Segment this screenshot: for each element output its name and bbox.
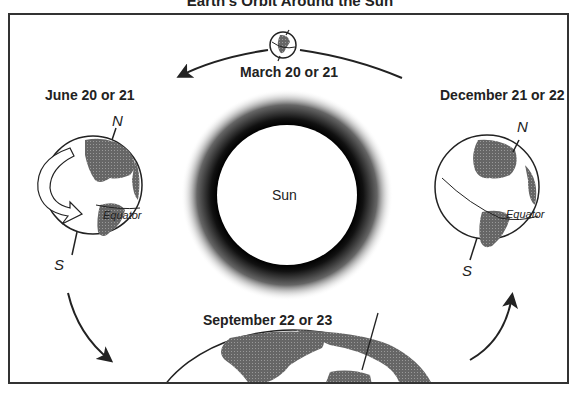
label-sun: Sun [272,187,297,203]
label-september: September 22 or 23 [203,312,332,328]
label-june: June 20 or 21 [45,87,135,103]
december-south-label: S [462,262,472,279]
label-march: March 20 or 21 [240,64,338,80]
december-equator-label: Equator [506,208,545,220]
june-south-label: S [54,256,64,273]
label-december: December 21 or 22 [440,87,565,103]
june-north-label: N [112,112,123,129]
june-equator-label: Equator [103,209,142,221]
december-north-label: N [517,118,528,135]
